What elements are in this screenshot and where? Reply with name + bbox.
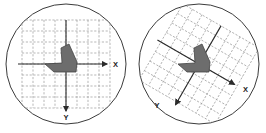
y-axis-label: Y [154,101,159,110]
y-axis-label: Y [63,113,68,122]
x-axis-label: X [243,85,248,94]
x-axis-label: X [113,60,118,69]
two-panel-coordinate-figure: X Y X Y [0,0,266,133]
panel-right-canvas: X Y [133,0,266,133]
panel-left-canvas: X Y [0,0,133,133]
panel-unrotated: X Y [0,0,133,133]
panel-rotated: X Y [133,0,266,133]
